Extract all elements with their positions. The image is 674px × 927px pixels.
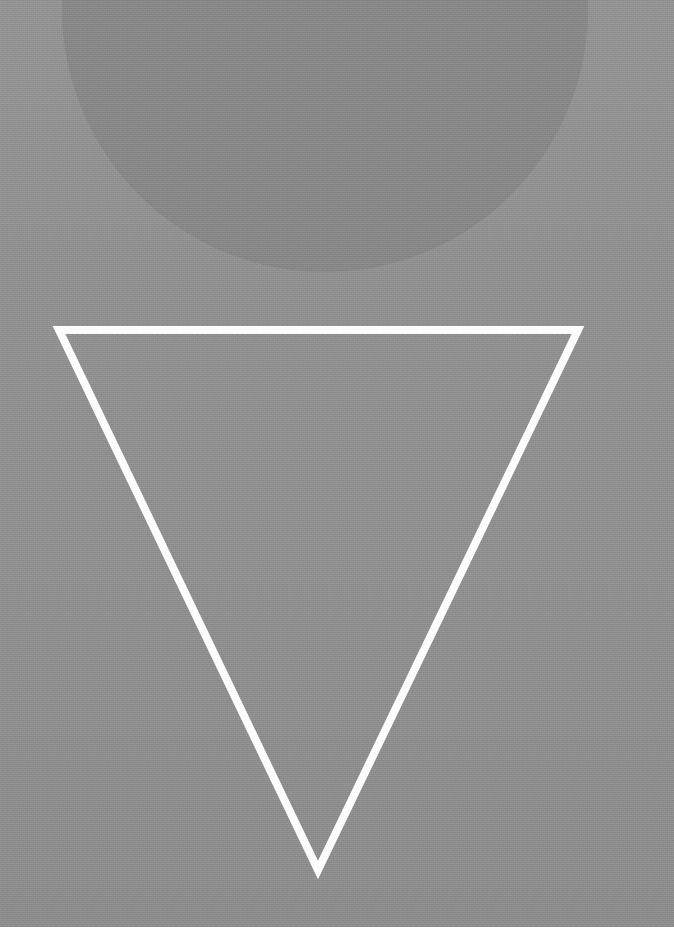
artwork-canvas: Inverted Triangle over Disc: [0, 0, 674, 927]
inverted-triangle-outline: [59, 330, 578, 870]
inverted-triangle-svg: [0, 0, 674, 927]
inverted-triangle-layer: [0, 0, 674, 927]
